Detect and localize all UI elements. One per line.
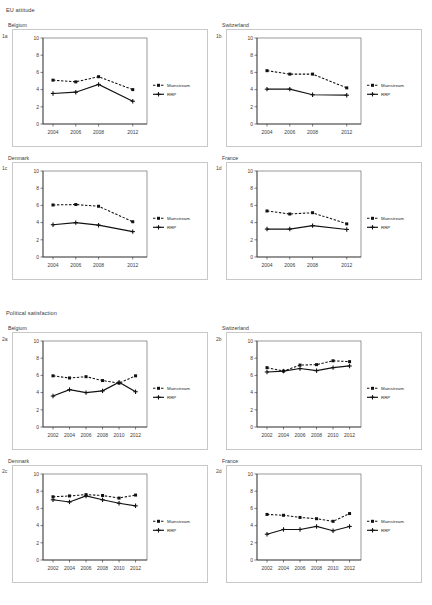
x-tick-label-1b: 2006	[284, 129, 295, 135]
marker-square-1c	[97, 205, 100, 208]
marker-cross-1c	[74, 220, 78, 224]
y-tick-label-2c: 4	[36, 522, 39, 528]
legend-label-mainstream-2d: Mainstream	[381, 519, 404, 524]
legend-label-mainstream-1b: Mainstream	[381, 83, 404, 88]
marker-cross-2a	[84, 390, 88, 394]
legend-label-mainstream-1c: Mainstream	[167, 216, 190, 221]
marker-square-2d	[332, 520, 335, 523]
marker-cross-2b	[331, 365, 335, 369]
chart-svg-1b: 02468102004200620082012MainstreamRRP	[227, 30, 421, 146]
marker-cross-2d	[281, 527, 285, 531]
x-tick-label-2c: 2002	[47, 565, 58, 571]
panel-tag-1b: 1b	[216, 33, 222, 39]
x-tick-label-1b: 2012	[341, 129, 352, 135]
marker-cross-1c	[51, 223, 55, 227]
y-tick-label-1c: 8	[36, 185, 39, 191]
marker-cross-1c	[96, 223, 100, 227]
marker-cross-1d	[288, 227, 292, 231]
x-tick-label-2b: 2004	[278, 432, 289, 438]
country-title-1b: Switzerland	[222, 22, 249, 28]
marker-square-2a	[52, 374, 55, 377]
panel-tag-2b: 2b	[216, 336, 222, 342]
marker-cross-2d	[314, 524, 318, 528]
marker-square-2b	[266, 366, 269, 369]
marker-square-2b	[315, 363, 318, 366]
x-tick-label-2b: 2008	[311, 432, 322, 438]
country-title-1a: Belgium	[8, 22, 27, 28]
x-tick-label-1a: 2004	[47, 129, 58, 135]
legend-label-mainstream-1a: Mainstream	[167, 83, 190, 88]
marker-cross-2d	[298, 527, 302, 531]
marker-cross-2c	[117, 501, 121, 505]
country-title-2a: Belgium	[8, 325, 27, 331]
series-line-rrp-2d	[267, 526, 350, 534]
y-tick-label-2a: 10	[33, 338, 39, 344]
y-tick-label-1a: 2	[36, 104, 39, 110]
x-tick-label-1c: 2006	[70, 262, 81, 268]
y-tick-label-1a: 0	[36, 121, 39, 127]
marker-cross-1b	[345, 93, 349, 97]
country-title-2b: Switzerland	[222, 325, 249, 331]
marker-cross-2d	[331, 529, 335, 533]
y-tick-label-1c: 0	[36, 254, 39, 260]
y-tick-label-2b: 10	[247, 338, 253, 344]
x-tick-label-2d: 2012	[344, 565, 355, 571]
marker-cross-2b	[281, 369, 285, 373]
marker-square-1b	[345, 86, 348, 89]
marker-square-2d	[282, 514, 285, 517]
y-tick-label-1c: 4	[36, 219, 39, 225]
x-tick-label-2a: 2006	[80, 432, 91, 438]
y-tick-label-1d: 8	[250, 185, 253, 191]
y-tick-label-2d: 2	[250, 540, 253, 546]
chart-panel-2a: 0246810200220042006200820102012Mainstrea…	[12, 332, 208, 450]
plot-frame-2b	[257, 341, 361, 427]
y-tick-label-1a: 10	[33, 35, 39, 41]
series-line-rrp-2a	[53, 382, 136, 396]
x-tick-label-1c: 2004	[47, 262, 58, 268]
series-line-mainstream-2d	[267, 514, 350, 522]
marker-cross-2b	[314, 368, 318, 372]
marker-square-2c	[118, 497, 121, 500]
panel-tag-1c: 1c	[2, 165, 7, 171]
x-tick-label-1d: 2008	[307, 262, 318, 268]
y-tick-label-1b: 2	[250, 104, 253, 110]
y-tick-label-1d: 0	[250, 254, 253, 260]
marker-square-2b	[299, 364, 302, 367]
x-tick-label-1a: 2008	[93, 129, 104, 135]
marker-square-1c	[131, 220, 134, 223]
marker-cross-1a	[96, 82, 100, 86]
x-tick-label-1d: 2004	[261, 262, 272, 268]
legend-label-rrp-2a: RRP	[167, 395, 176, 400]
country-title-1c: Denmark	[8, 155, 29, 161]
y-tick-label-1d: 2	[250, 237, 253, 243]
y-tick-label-2b: 6	[250, 372, 253, 378]
marker-cross-2d	[347, 524, 351, 528]
marker-cross-2c	[84, 494, 88, 498]
marker-square-1b	[288, 73, 291, 76]
panel-tag-2c: 2c	[2, 468, 7, 474]
plot-frame-1c	[43, 171, 147, 257]
y-tick-label-2d: 0	[250, 557, 253, 563]
series-line-rrp-2b	[267, 366, 350, 372]
x-tick-label-1d: 2006	[284, 262, 295, 268]
figure-page: EU attitude Belgium 1a 02468102004200620…	[0, 0, 432, 605]
country-title-2d: France	[222, 458, 238, 464]
y-tick-label-2d: 10	[247, 471, 253, 477]
chart-svg-2d: 0246810200220042006200820102012Mainstrea…	[227, 466, 421, 582]
marker-cross-1d	[345, 227, 349, 231]
y-tick-label-1c: 6	[36, 202, 39, 208]
x-tick-label-1b: 2004	[261, 129, 272, 135]
chart-panel-1a: 02468102004200620082012MainstreamRRP	[12, 29, 208, 147]
y-tick-label-1c: 10	[33, 168, 39, 174]
marker-cross-2c	[51, 498, 55, 502]
panel-tag-2d: 2d	[216, 468, 222, 474]
y-tick-label-2a: 0	[36, 424, 39, 430]
marker-cross-2d	[265, 532, 269, 536]
x-tick-label-1d: 2012	[341, 262, 352, 268]
x-tick-label-2b: 2006	[294, 432, 305, 438]
legend-label-rrp-1d: RRP	[381, 225, 390, 230]
marker-square-2c	[134, 494, 137, 497]
x-tick-label-2a: 2002	[47, 432, 58, 438]
marker-square-1d	[266, 209, 269, 212]
marker-square-2b	[348, 360, 351, 363]
